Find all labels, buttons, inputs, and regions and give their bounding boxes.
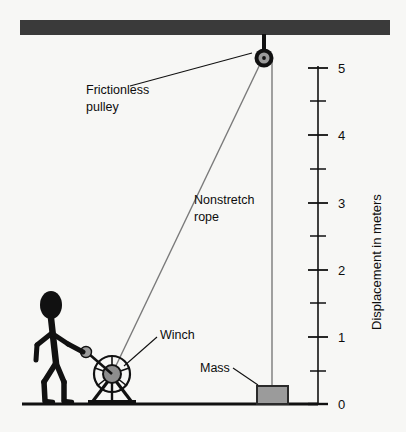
scale-label-0: 0 (338, 397, 345, 412)
label-nonstretch-rope-line1: Nonstretch (194, 193, 254, 207)
figure-arm-back-lower (36, 345, 37, 360)
pulley-axle-dot (262, 56, 266, 60)
label-frictionless-pulley-line1: Frictionless (86, 83, 149, 97)
label-winch: Winch (160, 328, 195, 342)
ceiling-beam (20, 20, 390, 35)
scale-label-4: 4 (338, 128, 345, 143)
figure-torso (51, 318, 56, 363)
scale-label-1: 1 (338, 330, 345, 345)
figure-foot-back (45, 401, 53, 402)
label-nonstretch-rope-line2: rope (194, 210, 219, 224)
leader-line-pulley (130, 53, 252, 86)
leader-line-winch (124, 337, 157, 366)
scale-label-2: 2 (338, 263, 345, 278)
mass-block (257, 386, 288, 404)
scale-label-5: 5 (338, 61, 345, 76)
figure-arm-back-upper (37, 333, 52, 345)
figure-arm-front-lower (68, 344, 83, 352)
rope-winch-to-pulley (112, 60, 262, 374)
physics-diagram: 5 4 3 2 1 0 Displacement in meters Frict… (0, 0, 406, 432)
figure-leg-front-upper (56, 363, 64, 382)
leader-line-mass (233, 368, 258, 385)
scale-label-3: 3 (338, 196, 345, 211)
scale-axis-title: Displacement in meters (369, 194, 384, 330)
figure-foot-front (64, 401, 72, 402)
figure-leg-back-lower (44, 382, 45, 401)
pulley-mount-stem (262, 34, 266, 50)
figure-leg-back-upper (44, 363, 56, 382)
diagram-canvas: 5 4 3 2 1 0 Displacement in meters Frict… (0, 0, 406, 432)
label-frictionless-pulley-line2: pulley (86, 100, 119, 114)
label-mass: Mass (200, 361, 230, 375)
